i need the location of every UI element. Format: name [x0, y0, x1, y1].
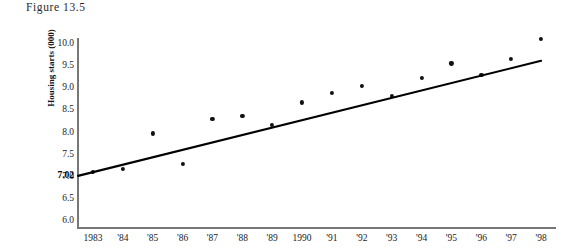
data-point [210, 117, 214, 121]
x-tick-label: '92 [356, 233, 367, 243]
data-point [390, 94, 394, 98]
data-point [509, 57, 513, 61]
x-axis-line [77, 227, 556, 229]
y-tick-label: 10.0 [38, 38, 74, 48]
data-point [240, 114, 244, 118]
data-point [91, 170, 95, 174]
data-point [539, 37, 543, 41]
x-tick-label: '88 [237, 233, 248, 243]
y-intercept-annotation: 7.02 [34, 170, 74, 180]
data-point [360, 84, 364, 88]
data-point [449, 61, 453, 65]
y-tick-label: 9.5 [38, 60, 74, 70]
y-axis-line [77, 38, 79, 228]
data-point [121, 167, 125, 171]
x-tick-label: '93 [386, 233, 397, 243]
data-point [479, 73, 483, 77]
x-tick-label: '94 [416, 233, 427, 243]
regression-line [0, 0, 568, 251]
data-point [330, 91, 334, 95]
x-tick-label: '87 [207, 233, 218, 243]
x-tick-label: '86 [177, 233, 188, 243]
figure-container: Figure 13.5 Housing starts (000) 10.09.5… [0, 0, 568, 251]
x-tick-label: '91 [326, 233, 337, 243]
data-point [151, 131, 155, 135]
y-tick-label: 8.5 [38, 104, 74, 114]
y-tick-label: 9.0 [38, 82, 74, 92]
y-axis-tick-labels: 10.09.59.08.58.07.57.06.56.0 [34, 0, 74, 251]
x-tick-label: '97 [506, 233, 517, 243]
x-tick-label: '95 [446, 233, 457, 243]
x-tick-label: '85 [147, 233, 158, 243]
data-point [270, 122, 274, 126]
x-tick-label: '84 [117, 233, 128, 243]
x-tick-label: '96 [476, 233, 487, 243]
data-point [300, 100, 304, 104]
x-tick-label: '89 [267, 233, 278, 243]
y-tick-label: 6.5 [38, 193, 74, 203]
x-tick-label: '98 [535, 233, 546, 243]
x-tick-label: 1983 [83, 233, 102, 243]
data-point [419, 76, 423, 80]
y-tick-label: 6.0 [38, 215, 74, 225]
data-point [180, 162, 184, 166]
y-tick-label: 7.5 [38, 149, 74, 159]
y-tick-label: 8.0 [38, 127, 74, 137]
x-tick-label: 1990 [293, 233, 312, 243]
